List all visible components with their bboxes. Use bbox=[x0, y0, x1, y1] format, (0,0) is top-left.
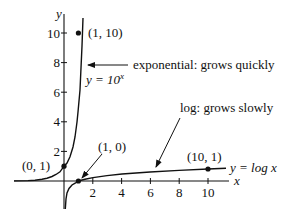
y-axis-label: y bbox=[54, 6, 62, 21]
point-1-0-arrow bbox=[82, 154, 102, 178]
log-arrow bbox=[156, 118, 180, 167]
x-tick-label: 8 bbox=[176, 185, 183, 200]
y-tick-label: 2 bbox=[54, 144, 61, 159]
x-axis-label: x bbox=[233, 173, 240, 188]
x-tick-label: 10 bbox=[202, 185, 215, 200]
point-label: (1, 10) bbox=[88, 25, 123, 40]
point-0-1 bbox=[61, 164, 66, 169]
exp-superscript: x bbox=[119, 71, 124, 81]
point-1-0 bbox=[76, 178, 81, 183]
exp-annotation: exponential: grows quickly bbox=[133, 57, 275, 72]
y-tick-label: 10 bbox=[47, 26, 60, 41]
chart: 2 4 6 8 10 2 4 6 8 10 x y (1, 10) (0, 1)… bbox=[0, 0, 294, 214]
exp-curve bbox=[14, 18, 83, 181]
point-label: (0, 1) bbox=[22, 158, 50, 173]
x-tick-label: 2 bbox=[90, 185, 97, 200]
y-tick-label: 4 bbox=[54, 114, 61, 129]
y-tick-label: 6 bbox=[54, 85, 61, 100]
point-10-1 bbox=[205, 166, 210, 171]
point-label: (1, 0) bbox=[98, 139, 126, 154]
exp-curve-label: y = 10x bbox=[84, 71, 124, 87]
x-tick-label: 4 bbox=[118, 185, 125, 200]
point-label: (10, 1) bbox=[187, 149, 222, 164]
x-tick-label: 6 bbox=[147, 185, 154, 200]
y-tick-label: 8 bbox=[54, 55, 61, 70]
log-curve-label: y = log x bbox=[228, 160, 277, 175]
point-1-10 bbox=[76, 30, 81, 35]
log-annotation: log: grows slowly bbox=[180, 100, 274, 115]
